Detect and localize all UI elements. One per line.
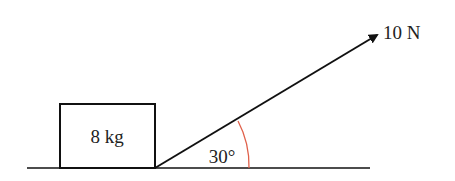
block-mass-label: 8 kg: [90, 126, 124, 147]
angle-arc: [238, 121, 249, 168]
angle-label: 30°: [209, 146, 236, 167]
force-diagram: 8 kg 30° 10 N: [0, 0, 455, 181]
force-arrow: [155, 35, 377, 168]
force-magnitude-label: 10 N: [383, 22, 421, 43]
